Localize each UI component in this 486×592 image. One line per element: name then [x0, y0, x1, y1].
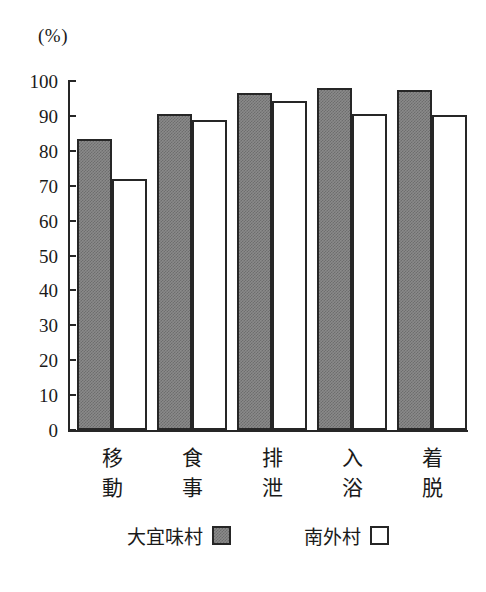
- bar-nangai-2: [192, 120, 227, 430]
- legend-swatch-nangai: [370, 526, 389, 545]
- legend-swatch-daigimi: [212, 526, 231, 545]
- y-tick-label: 0: [49, 421, 59, 440]
- y-tick-label: 10: [39, 386, 58, 405]
- x-axis-label-4: 入浴: [322, 443, 382, 504]
- x-axis-label-char: 泄: [242, 473, 302, 503]
- y-tick-mark: [68, 220, 76, 222]
- y-axis-unit-label: (%): [38, 26, 68, 45]
- y-tick-label: 80: [39, 141, 58, 160]
- y-tick-label: 100: [30, 72, 59, 91]
- x-axis-label-char: 入: [322, 443, 382, 473]
- bar-daigimi-4: [317, 88, 352, 430]
- bar-chart-figure: (%) 1009080706050403020100 移動食事排泄入浴着脱 大宜…: [0, 0, 486, 592]
- legend: 大宜味村 南外村: [0, 522, 486, 562]
- y-tick-label: 50: [39, 246, 58, 265]
- x-axis-label-char: 移: [82, 443, 142, 473]
- x-axis-label-1: 移動: [82, 443, 142, 504]
- x-axis-label-char: 脱: [402, 473, 462, 503]
- x-axis-label-char: 食: [162, 443, 222, 473]
- y-tick-mark: [68, 150, 76, 152]
- y-tick-mark: [68, 185, 76, 187]
- y-tick-label: 70: [39, 176, 58, 195]
- bar-group-5: [397, 81, 467, 430]
- y-tick-mark: [68, 80, 76, 82]
- bar-daigimi-5: [397, 90, 432, 430]
- bar-group-3: [237, 81, 307, 430]
- bar-group-1: [77, 81, 147, 430]
- bar-daigimi-3: [237, 93, 272, 430]
- x-axis-label-5: 着脱: [402, 443, 462, 504]
- x-axis-label-char: 排: [242, 443, 302, 473]
- y-tick-mark: [68, 359, 76, 361]
- y-tick-label: 40: [39, 281, 58, 300]
- y-tick-mark: [68, 289, 76, 291]
- legend-entry-daigimi: 大宜味村: [127, 522, 231, 549]
- legend-label-nangai: 南外村: [304, 522, 361, 549]
- y-tick-mark: [68, 394, 76, 396]
- y-tick-label: 20: [39, 351, 58, 370]
- bar-group-2: [157, 81, 227, 430]
- x-axis-label-char: 事: [162, 473, 222, 503]
- x-axis-label-char: 浴: [322, 473, 382, 503]
- legend-label-daigimi: 大宜味村: [127, 522, 203, 549]
- y-tick-mark: [68, 324, 76, 326]
- y-tick-label: 30: [39, 316, 58, 335]
- bar-daigimi-2: [157, 114, 192, 430]
- y-tick-label: 60: [39, 211, 58, 230]
- y-tick-mark: [68, 255, 76, 257]
- y-tick-mark: [68, 115, 76, 117]
- bar-daigimi-1: [77, 139, 112, 430]
- y-tick-label: 90: [39, 106, 58, 125]
- legend-entry-nangai: 南外村: [304, 522, 389, 549]
- bar-nangai-4: [352, 114, 387, 430]
- x-axis-label-3: 排泄: [242, 443, 302, 504]
- x-axis-label-char: 着: [402, 443, 462, 473]
- y-tick-mark: [68, 429, 76, 431]
- x-axis-label-2: 食事: [162, 443, 222, 504]
- plot-area: 1009080706050403020100 移動食事排泄入浴着脱: [68, 81, 468, 430]
- bar-group-4: [317, 81, 387, 430]
- x-axis-line: [68, 430, 468, 432]
- bar-nangai-1: [112, 179, 147, 430]
- bar-nangai-5: [432, 115, 467, 430]
- x-axis-label-char: 動: [82, 473, 142, 503]
- bar-nangai-3: [272, 101, 307, 430]
